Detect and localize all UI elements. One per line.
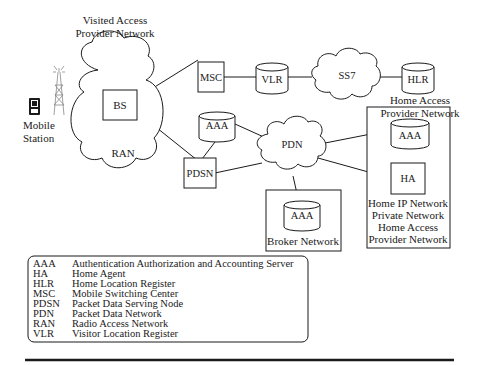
home-ip-network-label-4: Provider Network (368, 233, 448, 245)
aaa-visited-label: AAA (206, 120, 229, 131)
visited-network-label-1: Visited Access (83, 14, 147, 26)
home-ip-network-label-3: Home Access (378, 221, 438, 233)
vlr-label: VLR (262, 74, 283, 85)
home-access-label-1: Home Access (390, 94, 450, 106)
msc-label: MSC (200, 72, 222, 83)
home-ip-network-label-1: Home IP Network (368, 197, 449, 209)
ha-label: HA (400, 173, 416, 184)
home-access-label-2: Provider Network (380, 107, 460, 119)
pdsn-label: PDSN (187, 168, 214, 179)
legend-meaning: Visitor Location Register (72, 328, 179, 339)
broker-network-label: Broker Network (267, 235, 339, 247)
link-aaa-pdsn (202, 142, 215, 159)
aaa-home-label: AAA (399, 130, 422, 141)
mobile-station-label-2: Station (23, 132, 55, 144)
pdn-label: PDN (281, 139, 302, 150)
antenna-tower-icon (53, 66, 65, 115)
network-diagram: Mobile Station Visited Access Provider N… (0, 0, 479, 365)
bs-label: BS (113, 99, 126, 111)
mobile-station-label-1: Mobile (23, 119, 55, 131)
hlr-label: HLR (408, 74, 429, 85)
mobile-phone-icon (29, 98, 40, 115)
ss7-label: SS7 (339, 70, 356, 81)
link-pdsn-pdn (215, 163, 262, 173)
aaa-broker-label: AAA (291, 210, 314, 221)
legend-abbr: VLR (33, 328, 54, 339)
ran-label: RAN (111, 147, 134, 159)
home-ip-network-label-2: Private Network (372, 209, 445, 221)
visited-network-label-2: Provider Network (75, 27, 155, 39)
